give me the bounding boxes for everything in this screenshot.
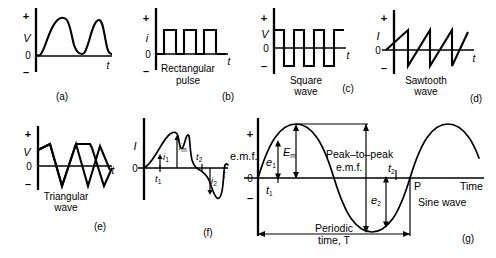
peak-to-peak-line1: Peak–to–peak bbox=[326, 148, 394, 160]
panel-f-plot: I 0 t i1 im t1 t2 i2 (f) bbox=[124, 108, 240, 258]
wave-name-line1: Square bbox=[290, 75, 323, 86]
panel-e: + V 0 – t Triangular wave (e) bbox=[0, 108, 124, 258]
plus-sign: + bbox=[381, 12, 387, 24]
waveform-curve-main bbox=[38, 144, 110, 186]
x-axis-label: t bbox=[228, 56, 232, 67]
zero-label: 0 bbox=[145, 49, 151, 60]
wave-name-line2: wave bbox=[413, 86, 438, 97]
period-arrowhead-right bbox=[403, 231, 410, 237]
y-axis-label: e.m.f. bbox=[230, 150, 258, 162]
panel-f: I 0 t i1 im t1 t2 i2 (f) bbox=[124, 108, 240, 258]
panel-caption-b: (b) bbox=[222, 91, 234, 102]
label-t2: t2 bbox=[388, 162, 395, 175]
panel-caption-d: (d) bbox=[470, 93, 482, 104]
Em-arrowhead-up bbox=[293, 124, 299, 131]
wave-name-line2: pulse bbox=[176, 75, 200, 86]
x-axis-label: t bbox=[107, 60, 111, 71]
label-t2: t2 bbox=[196, 151, 203, 163]
plus-sign: + bbox=[23, 10, 29, 22]
i1-arrowhead bbox=[157, 154, 162, 159]
waveforms-figure-sheet: + V 0 – t (a) + i 0 – t Rectangular puls… bbox=[0, 0, 496, 258]
panel-c-plot: + V 0 – t Square wave (c) bbox=[244, 0, 364, 108]
plus-sign: + bbox=[261, 12, 267, 24]
e1-arrowhead-up bbox=[275, 140, 281, 147]
y-axis-label: V bbox=[23, 32, 32, 44]
x-axis-label: t bbox=[347, 50, 351, 61]
panel-g-plot: + e.m.f. 0 – Time e1 Em t1 t2 e2 Peak–to… bbox=[228, 108, 496, 258]
panel-b-plot: + i 0 – t Rectangular pulse (b) bbox=[124, 0, 244, 108]
x-axis-label: t bbox=[223, 169, 227, 180]
period-line1: Periodic bbox=[315, 222, 353, 234]
waveform-curve bbox=[144, 132, 228, 198]
panel-e-plot: + V 0 – t Triangular wave (e) bbox=[0, 108, 124, 258]
plus-sign: + bbox=[247, 128, 253, 140]
zero-label: 0 bbox=[375, 45, 381, 56]
waveform-curve bbox=[386, 30, 468, 66]
wave-name-line2: wave bbox=[53, 202, 78, 213]
y-axis-label: V bbox=[261, 28, 270, 40]
panel-b: + i 0 – t Rectangular pulse (b) bbox=[124, 0, 244, 108]
wave-name-line2: wave bbox=[293, 86, 318, 97]
y-axis-label: V bbox=[23, 146, 32, 158]
panel-d-plot: + I 0 – t Sawtooth wave (d) bbox=[364, 0, 496, 108]
minus-sign: – bbox=[143, 65, 149, 77]
panel-g: + e.m.f. 0 – Time e1 Em t1 t2 e2 Peak–to… bbox=[228, 108, 496, 258]
panel-a-plot: + V 0 – t (a) bbox=[0, 0, 124, 108]
i2-arrowhead bbox=[207, 190, 212, 195]
minus-sign: – bbox=[25, 178, 31, 190]
waveform-curve bbox=[36, 18, 112, 56]
panel-a: + V 0 – t (a) bbox=[0, 0, 124, 108]
zero-label: 0 bbox=[26, 161, 32, 172]
period-line2: time, T bbox=[318, 234, 350, 246]
panel-caption-e: (e) bbox=[94, 221, 106, 232]
minus-sign: – bbox=[261, 60, 267, 72]
label-t1: t1 bbox=[266, 184, 273, 197]
label-Em: Em bbox=[283, 146, 296, 159]
panel-caption-g: (g) bbox=[462, 233, 474, 244]
point-label-P: P bbox=[414, 180, 421, 192]
plus-sign: + bbox=[25, 128, 31, 140]
panel-caption-c: (c) bbox=[342, 83, 354, 94]
waveform-curve bbox=[156, 30, 226, 54]
wave-name: Sine wave bbox=[418, 196, 467, 208]
wave-name-line1: Rectangular bbox=[161, 63, 216, 74]
label-e2: e2 bbox=[371, 194, 381, 207]
label-i1: i1 bbox=[163, 151, 169, 163]
y-axis-label: I bbox=[133, 140, 136, 152]
wave-name-line1: Sawtooth bbox=[405, 75, 447, 86]
label-i2: i2 bbox=[211, 175, 217, 187]
minus-sign: – bbox=[381, 62, 387, 74]
panel-d: + I 0 – t Sawtooth wave (d) bbox=[364, 0, 496, 108]
x-axis-label: Time bbox=[460, 180, 483, 192]
x-axis-label: t bbox=[112, 165, 116, 176]
label-t1: t1 bbox=[155, 173, 162, 185]
label-e1: e1 bbox=[266, 156, 276, 169]
p2p-arrowhead-up bbox=[363, 124, 369, 131]
zero-label: 0 bbox=[25, 50, 31, 61]
panel-c: + V 0 – t Square wave (c) bbox=[244, 0, 364, 108]
e2-arrowhead-up bbox=[383, 176, 389, 183]
plus-sign: + bbox=[143, 12, 149, 24]
panel-caption-f: (f) bbox=[203, 227, 212, 238]
y-axis-label: i bbox=[146, 32, 149, 44]
zero-label: 0 bbox=[132, 163, 138, 174]
minus-sign: – bbox=[23, 66, 29, 78]
minus-sign: – bbox=[247, 192, 253, 204]
peak-to-peak-line2: e.m.f. bbox=[336, 161, 362, 173]
zero-label: 0 bbox=[263, 43, 269, 54]
x-axis-label: t bbox=[473, 53, 477, 64]
zero-label: 0 bbox=[247, 173, 253, 184]
y-axis-label: I bbox=[376, 30, 379, 42]
panel-caption-a: (a) bbox=[56, 91, 68, 102]
wave-name-line1: Triangular bbox=[44, 191, 89, 202]
